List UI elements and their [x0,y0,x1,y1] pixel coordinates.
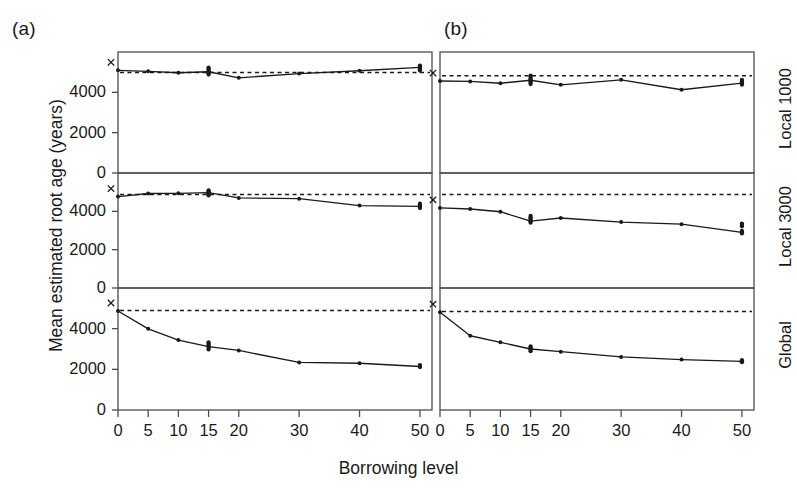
data-point [358,361,362,365]
data-line [118,193,420,207]
x-tick-label: 40 [662,421,702,440]
plot-area [0,0,797,488]
data-point [176,191,180,195]
data-line [118,311,420,367]
replicate-point [740,224,744,228]
data-point [176,338,180,342]
data-point [207,345,211,349]
data-point [297,72,301,76]
series-group [430,301,752,364]
data-point [680,222,684,226]
data-line [440,80,742,90]
data-point [468,207,472,211]
start-x-marker [430,301,436,307]
data-point [740,230,744,234]
x-tick-label: 40 [340,421,380,440]
data-point [498,210,502,214]
panel-letter-b: (b) [444,18,468,40]
data-point [468,334,472,338]
y-tick-label: 2000 [40,123,106,142]
y-tick-label: 2000 [40,359,106,378]
data-point [619,78,623,82]
data-point [740,81,744,85]
data-point [237,348,241,352]
data-point [438,79,442,83]
figure-canvas: (a) (b) Mean estimated root age (years) … [0,0,797,488]
data-line [118,67,420,77]
panel-frame [118,173,432,288]
data-point [418,364,422,368]
data-point [237,196,241,200]
data-point [297,360,301,364]
series-group [430,194,752,235]
y-tick-label: 0 [40,163,106,182]
x-tick-label: 20 [541,421,581,440]
panel-frame [118,52,432,173]
y-tick-label: 4000 [40,82,106,101]
data-point [559,83,563,87]
data-point [468,79,472,83]
data-point [529,347,533,351]
series-group [108,59,430,80]
data-point [237,76,241,80]
data-point [146,192,150,196]
data-point [529,219,533,223]
data-point [176,71,180,75]
row-label-global: Global [776,284,795,406]
data-point [146,327,150,331]
start-x-marker [108,185,114,191]
data-point [297,197,301,201]
series-group [108,300,430,369]
data-point [438,206,442,210]
data-point [619,355,623,359]
data-line [440,312,742,361]
x-tick-label: 30 [601,421,641,440]
data-point [358,204,362,208]
panel-frame [440,288,754,410]
data-point [358,69,362,73]
data-point [116,68,120,72]
data-point [559,350,563,354]
y-tick-label: 4000 [40,319,106,338]
panel-frame [118,288,432,410]
data-point [116,195,120,199]
data-point [740,359,744,363]
data-point [207,70,211,74]
data-point [498,340,502,344]
series-group [108,185,430,210]
replicate-point [528,82,532,86]
data-point [418,65,422,69]
x-tick-label: 30 [279,421,319,440]
data-point [680,88,684,92]
start-x-marker [108,59,114,65]
data-line [440,208,742,233]
data-point [559,216,563,220]
data-point [146,69,150,73]
data-point [529,78,533,82]
panel-letter-a: (a) [12,18,36,40]
start-x-marker [430,197,436,203]
series-group [430,70,752,92]
y-tick-label: 0 [40,278,106,297]
y-tick-label: 2000 [40,240,106,259]
data-point [418,204,422,208]
panel-frame [440,173,754,288]
x-tick-label: 50 [722,421,762,440]
x-tick-label: 20 [219,421,259,440]
y-tick-label: 4000 [40,201,106,220]
y-tick-label: 0 [40,400,106,419]
data-point [498,81,502,85]
data-point [207,191,211,195]
row-label-local-1000: Local 1000 [776,48,795,169]
panel-frame [440,52,754,173]
x-axis-label: Borrowing level [0,458,797,479]
start-x-marker [108,300,114,306]
row-label-local-3000: Local 3000 [776,169,795,284]
data-point [438,310,442,314]
start-x-marker [430,70,436,76]
data-point [680,358,684,362]
data-point [619,220,623,224]
data-point [116,309,120,313]
